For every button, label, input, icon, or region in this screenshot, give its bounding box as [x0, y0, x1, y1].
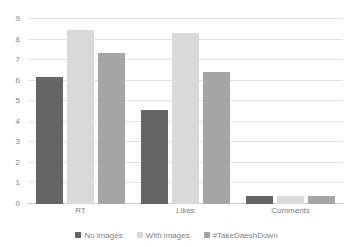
bar[interactable]: [308, 196, 335, 204]
bar[interactable]: [277, 196, 304, 204]
y-axis-tick-label: 4: [16, 118, 20, 126]
legend-item[interactable]: #TakeDaeshDown: [204, 231, 278, 240]
y-axis-tick-labels: 0123456789: [0, 19, 26, 204]
y-axis-tick-label: 7: [16, 56, 20, 64]
bar[interactable]: [98, 53, 125, 204]
bar[interactable]: [67, 30, 94, 204]
legend-swatch-icon: [137, 232, 143, 238]
y-axis-tick-label: 3: [16, 138, 20, 146]
bar[interactable]: [203, 72, 230, 204]
y-axis-tick-label: 6: [16, 77, 20, 85]
x-axis-category-label: RT: [75, 206, 86, 216]
legend-swatch-icon: [204, 232, 210, 238]
bar[interactable]: [172, 33, 199, 204]
y-axis-tick-label: 5: [16, 97, 20, 105]
y-axis-tick-label: 2: [16, 159, 20, 167]
legend-label: With images: [146, 231, 190, 240]
legend-item[interactable]: With images: [137, 231, 190, 240]
x-axis-category-label: Likes: [176, 206, 195, 216]
legend-label: #TakeDaeshDown: [213, 231, 278, 240]
legend-label: No images: [84, 231, 122, 240]
bar[interactable]: [141, 110, 168, 204]
bar-chart: 0123456789 RTLikesComments No imagesWith…: [0, 0, 353, 247]
x-axis-category-labels: RTLikesComments: [28, 206, 343, 220]
y-axis-tick-label: 9: [16, 15, 20, 23]
plot-area: [28, 19, 343, 204]
y-axis-tick-label: 8: [16, 36, 20, 44]
legend-swatch-icon: [75, 232, 81, 238]
legend-item[interactable]: No images: [75, 231, 122, 240]
bar[interactable]: [36, 77, 63, 204]
y-axis-tick-label: 1: [16, 179, 20, 187]
chart-legend: No imagesWith images#TakeDaeshDown: [0, 228, 353, 242]
bar[interactable]: [246, 196, 273, 204]
bars-layer: [28, 19, 343, 204]
y-axis-tick-label: 0: [16, 200, 20, 208]
x-axis-category-label: Comments: [271, 206, 310, 216]
